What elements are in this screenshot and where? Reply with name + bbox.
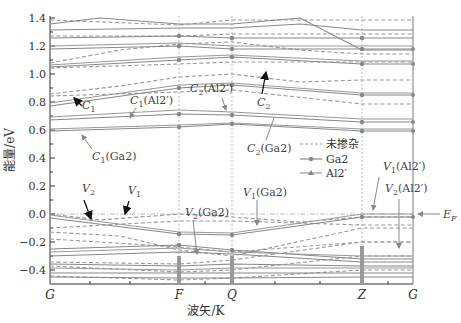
y-tick-label: 0.2 (29, 180, 47, 193)
x-axis: G F Q Z G 波矢/K (45, 279, 418, 318)
annotation-v2-al2: V2(Al2′) (385, 182, 428, 197)
y-tick-label: 1.2 (29, 40, 47, 53)
x-axis-title: 波矢/K (187, 304, 225, 318)
arrow-v1-al2 (373, 177, 379, 210)
annotation-v1-al2: V1(Al2′) (383, 160, 426, 175)
kpoint-label-G: G (45, 288, 55, 302)
arrow-c2 (262, 72, 266, 94)
y-tick-label: 0.6 (29, 124, 47, 137)
legend: 未掺杂 Ga2 Al2′ (300, 137, 359, 180)
annotation-v1-ga2: V1(Ga2) (243, 186, 287, 201)
arrow-c2-ga2 (266, 118, 274, 140)
band-structure-chart: 1.4 1.2 1.0 0.8 0.6 0.4 0.2 0.0 −0.2 −0.… (0, 0, 461, 323)
annotation-v1: V1 (128, 184, 141, 199)
annotation-c1: C1 (82, 99, 96, 114)
annotations: C1 C1(Al2′) C1(Ga2) C2(Al2′) C2 C2(Ga2) … (74, 72, 457, 254)
kpoint-label-Q: Q (227, 288, 237, 302)
y-tick-label: 0.8 (29, 96, 47, 109)
y-tick-label: 1.0 (29, 68, 47, 81)
y-tick-label: −0.4 (19, 264, 46, 277)
annotation-c1-ga2: C1(Ga2) (92, 150, 136, 165)
annotation-c2: C2 (257, 96, 271, 111)
band-markers (177, 34, 415, 284)
kpoint-label-F: F (174, 288, 184, 302)
arrow-c2-al2 (222, 98, 226, 110)
kpoint-label-Z: Z (357, 288, 367, 302)
kpoint-label-G-end: G (408, 288, 418, 302)
arrow-c1-ga2 (82, 135, 92, 149)
legend-label-undoped: 未掺杂 (326, 137, 359, 151)
legend-marker-circle (309, 157, 313, 161)
annotation-v2-ga2: V2(Ga2) (185, 206, 229, 221)
legend-label-al2: Al2′ (325, 167, 347, 180)
y-tick-label: −0.2 (19, 236, 46, 249)
y-tick-label: 0.4 (29, 152, 47, 165)
annotation-v2: V2 (82, 182, 95, 197)
annotation-fermi-level: EF (442, 208, 457, 223)
y-axis: 1.4 1.2 1.0 0.8 0.6 0.4 0.2 0.0 −0.2 −0.… (3, 12, 55, 277)
legend-label-ga2: Ga2 (326, 153, 348, 166)
annotation-c2-ga2: C2(Ga2) (247, 142, 291, 157)
arrow-v1 (125, 201, 129, 214)
y-tick-label: 1.4 (29, 12, 47, 25)
y-axis-title: 能量/eV (3, 128, 17, 172)
arrow-v2 (84, 200, 91, 219)
annotation-c2-al2: C2(Al2′) (190, 82, 233, 97)
y-tick-label: 0.0 (29, 208, 47, 221)
annotation-c1-al2: C1(Al2′) (130, 94, 173, 109)
